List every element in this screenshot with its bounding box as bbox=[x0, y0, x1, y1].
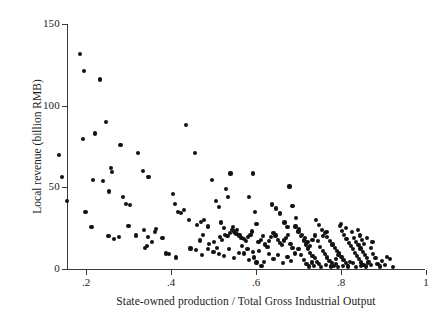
data-point bbox=[281, 261, 285, 265]
data-point bbox=[319, 265, 323, 269]
data-point bbox=[244, 239, 248, 243]
data-point bbox=[293, 251, 297, 255]
data-point bbox=[259, 264, 263, 268]
data-point bbox=[297, 227, 301, 231]
data-point bbox=[308, 244, 312, 248]
data-point bbox=[267, 239, 271, 243]
data-point bbox=[265, 245, 269, 249]
data-point bbox=[136, 151, 140, 155]
data-point bbox=[334, 257, 338, 261]
data-point bbox=[118, 143, 122, 147]
data-point bbox=[254, 222, 258, 226]
data-point bbox=[224, 187, 228, 191]
data-point bbox=[117, 235, 121, 239]
data-point bbox=[217, 252, 221, 256]
data-point bbox=[310, 238, 314, 242]
data-point bbox=[227, 247, 231, 251]
data-point bbox=[220, 238, 224, 242]
plot-area bbox=[67, 24, 425, 270]
data-point bbox=[294, 216, 298, 220]
data-point bbox=[201, 233, 205, 237]
data-point bbox=[60, 175, 64, 179]
data-point bbox=[232, 256, 236, 260]
data-point bbox=[358, 233, 362, 237]
data-point bbox=[173, 202, 177, 206]
x-tick-mark bbox=[256, 270, 257, 275]
data-point bbox=[251, 171, 255, 175]
data-point bbox=[370, 240, 374, 244]
data-point bbox=[290, 204, 294, 208]
data-point bbox=[252, 255, 256, 259]
x-tick-mark bbox=[341, 270, 342, 275]
data-point bbox=[247, 258, 251, 262]
data-point bbox=[222, 254, 226, 258]
data-point bbox=[339, 222, 343, 226]
data-point bbox=[346, 264, 350, 268]
x-tick-mark bbox=[426, 270, 427, 275]
data-point bbox=[134, 233, 138, 237]
x-tick-mark bbox=[171, 270, 172, 275]
data-point bbox=[202, 218, 206, 222]
data-point bbox=[316, 239, 320, 243]
data-point bbox=[341, 264, 345, 268]
data-point bbox=[212, 240, 216, 244]
data-point bbox=[154, 227, 158, 231]
data-point bbox=[296, 247, 300, 251]
data-point bbox=[226, 195, 230, 199]
data-point bbox=[142, 228, 146, 232]
data-point bbox=[207, 242, 211, 246]
data-point bbox=[193, 151, 197, 155]
y-tick-label: 150 bbox=[34, 18, 60, 29]
data-point bbox=[354, 265, 358, 269]
data-point bbox=[214, 199, 218, 203]
data-point bbox=[267, 252, 271, 256]
data-point bbox=[219, 220, 223, 224]
data-point bbox=[121, 195, 125, 199]
data-point bbox=[261, 234, 265, 238]
data-point bbox=[259, 238, 263, 242]
data-point bbox=[198, 238, 202, 242]
data-point bbox=[81, 137, 85, 141]
data-point bbox=[299, 253, 303, 257]
data-point bbox=[78, 52, 82, 56]
y-axis-title: Local revenue (billion RMB) bbox=[31, 37, 44, 257]
data-point bbox=[383, 263, 387, 267]
data-point bbox=[286, 233, 290, 237]
data-point bbox=[391, 265, 395, 269]
data-point bbox=[217, 205, 221, 209]
data-point bbox=[210, 178, 214, 182]
data-point bbox=[182, 208, 186, 212]
data-point bbox=[287, 184, 291, 188]
data-point bbox=[273, 233, 277, 237]
data-point bbox=[307, 264, 311, 268]
data-point bbox=[366, 260, 370, 264]
data-point bbox=[312, 264, 316, 268]
data-point bbox=[128, 203, 132, 207]
data-point bbox=[188, 246, 192, 250]
data-point bbox=[107, 189, 111, 193]
data-point bbox=[112, 237, 116, 241]
data-point bbox=[240, 244, 244, 248]
data-point bbox=[194, 248, 198, 252]
data-point bbox=[228, 171, 232, 175]
data-point bbox=[336, 265, 340, 269]
data-point bbox=[101, 179, 105, 183]
data-point bbox=[365, 236, 369, 240]
data-point bbox=[141, 169, 145, 173]
data-point bbox=[65, 199, 69, 203]
data-point bbox=[143, 246, 147, 250]
data-point bbox=[174, 255, 178, 259]
data-point bbox=[146, 175, 150, 179]
data-point bbox=[289, 259, 293, 263]
data-point bbox=[356, 228, 360, 232]
data-point bbox=[359, 264, 363, 268]
data-point bbox=[104, 120, 108, 124]
data-point bbox=[324, 230, 328, 234]
data-point bbox=[146, 235, 150, 239]
data-point bbox=[278, 211, 282, 215]
data-point bbox=[245, 247, 249, 251]
data-point bbox=[110, 170, 114, 174]
data-point bbox=[200, 253, 204, 257]
data-point bbox=[57, 153, 61, 157]
scatter-plot-figure: 050100150 .2.4.6.81 State-owned producti… bbox=[0, 0, 446, 329]
